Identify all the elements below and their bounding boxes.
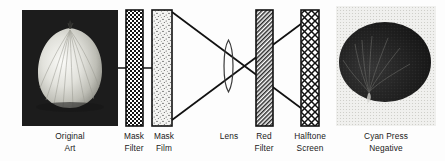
original-art-photo xyxy=(22,10,118,126)
mask-filter-plate xyxy=(126,10,143,126)
label-cyan-press-negative: Cyan Press Negative xyxy=(340,131,432,154)
light-rays xyxy=(172,12,317,120)
halftone-screen-plate xyxy=(301,10,319,126)
label-original-art: Original Art xyxy=(20,131,120,154)
lens-element xyxy=(224,40,233,92)
mask-film-plate xyxy=(152,10,172,126)
label-lens: Lens xyxy=(210,131,248,143)
cyan-press-negative-photo xyxy=(336,6,436,126)
label-mask-film: Mask Film xyxy=(145,131,183,154)
label-red-filter: Red Filter xyxy=(244,131,284,154)
red-filter-plate xyxy=(256,10,273,126)
diagram-canvas: Original Art Mask Filter Mask Film Lens … xyxy=(0,0,445,161)
label-halftone-screen: Halftone Screen xyxy=(284,131,336,154)
